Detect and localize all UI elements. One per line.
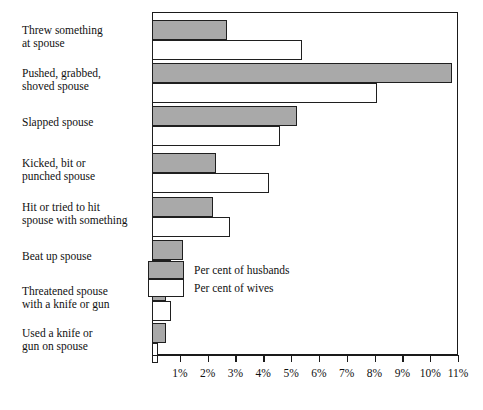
category-label-5: Beat up spouse xyxy=(22,250,150,264)
x-tick-label-6: 6% xyxy=(304,366,334,380)
chart-legend: Per cent of husbands Per cent of wives xyxy=(148,261,304,297)
bar-husbands-3 xyxy=(152,153,216,173)
x-tick-6 xyxy=(319,355,320,362)
x-tick-label-1: 1% xyxy=(165,366,195,380)
category-label-2: Slapped spouse xyxy=(22,116,150,130)
category-label-column: Threw something at spousePushed, grabbed… xyxy=(0,0,150,355)
category-label-0: Threw something at spouse xyxy=(22,24,150,51)
x-tick-label-5: 5% xyxy=(276,366,306,380)
x-tick-11 xyxy=(458,355,459,362)
x-axis: 1%2%3%4%5%6%7%8%9%10%11% xyxy=(152,355,458,395)
legend-label-husbands: Per cent of husbands xyxy=(194,262,290,278)
x-tick-label-8: 8% xyxy=(360,366,390,380)
x-tick-label-2: 2% xyxy=(193,366,223,380)
bar-husbands-1 xyxy=(152,63,452,83)
legend-entry-wives: Per cent of wives xyxy=(148,279,304,297)
x-tick-9 xyxy=(402,355,403,362)
x-tick-8 xyxy=(375,355,376,362)
bar-group xyxy=(153,13,457,354)
bar-husbands-2 xyxy=(152,106,297,126)
bar-wives-4 xyxy=(152,217,230,237)
x-tick-3 xyxy=(235,355,236,362)
category-label-4: Hit or tried to hit spouse with somethin… xyxy=(22,201,150,228)
bar-wives-6 xyxy=(152,301,171,321)
bar-husbands-7 xyxy=(152,323,166,343)
bar-husbands-0 xyxy=(152,20,227,40)
legend-label-wives: Per cent of wives xyxy=(194,280,274,296)
bar-wives-2 xyxy=(152,126,280,146)
category-label-6: Threatened spouse with a knife or gun xyxy=(22,285,150,312)
bar-wives-0 xyxy=(152,40,302,60)
x-tick-4 xyxy=(263,355,264,362)
x-axis-left-cap xyxy=(152,347,153,356)
x-tick-7 xyxy=(347,355,348,362)
x-tick-5 xyxy=(291,355,292,362)
x-tick-label-3: 3% xyxy=(220,366,250,380)
x-tick-label-4: 4% xyxy=(248,366,278,380)
x-tick-10 xyxy=(430,355,431,362)
x-tick-label-7: 7% xyxy=(332,366,362,380)
bar-wives-1 xyxy=(152,83,377,103)
x-tick-2 xyxy=(208,355,209,362)
x-tick-1 xyxy=(180,355,181,362)
bar-husbands-4 xyxy=(152,197,213,217)
category-label-3: Kicked, bit or punched spouse xyxy=(22,157,150,184)
x-tick-label-11: 11% xyxy=(443,366,473,380)
legend-swatch-wives xyxy=(148,279,184,297)
x-tick-label-9: 9% xyxy=(387,366,417,380)
category-label-7: Used a knife or gun on spouse xyxy=(22,327,150,354)
x-tick-label-10: 10% xyxy=(415,366,445,380)
x-axis-line xyxy=(152,355,458,356)
chart-page: Threw something at spousePushed, grabbed… xyxy=(0,0,483,410)
bar-husbands-5 xyxy=(152,240,183,260)
bar-wives-3 xyxy=(152,173,269,193)
category-label-1: Pushed, grabbed, shoved spouse xyxy=(22,67,150,94)
legend-swatch-husbands xyxy=(148,261,184,279)
legend-entry-husbands: Per cent of husbands xyxy=(148,261,304,279)
plot-area xyxy=(152,12,458,355)
